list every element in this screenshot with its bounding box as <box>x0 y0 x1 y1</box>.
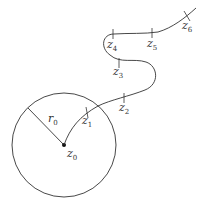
label-r0: r0 <box>48 112 58 127</box>
radius-line <box>28 108 64 145</box>
label-z0: z0 <box>66 147 77 162</box>
label-z5: z5 <box>146 37 157 52</box>
label-z4: z4 <box>106 38 118 53</box>
label-z1: z1 <box>81 114 92 129</box>
diagram-canvas: r0 z0 z1 z2 z3 z4 z5 z6 <box>0 0 208 213</box>
label-z2: z2 <box>118 101 129 116</box>
label-z6: z6 <box>181 19 193 34</box>
label-z3: z3 <box>112 65 123 80</box>
